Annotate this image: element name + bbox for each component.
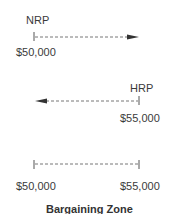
- zone-high-value: $55,000: [120, 180, 160, 192]
- hrp-value: $55,000: [120, 112, 160, 124]
- nrp-arrow: [34, 32, 139, 41]
- nrp-label: NRP: [26, 14, 49, 26]
- bargaining-zone-title: Bargaining Zone: [46, 203, 133, 214]
- zone-low-value: $50,000: [16, 180, 56, 192]
- nrp-value: $50,000: [16, 46, 56, 58]
- arrow-left-icon: [35, 99, 47, 104]
- hrp-arrow: [35, 96, 139, 105]
- hrp-label: HRP: [130, 82, 153, 94]
- bargaining-zone-line: [34, 160, 139, 169]
- arrow-right-icon: [127, 35, 139, 40]
